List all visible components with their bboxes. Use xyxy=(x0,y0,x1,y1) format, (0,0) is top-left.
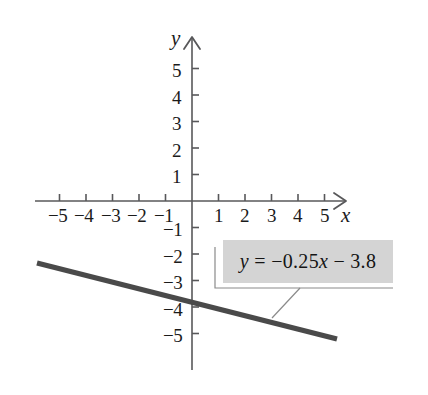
equation-equals: = xyxy=(249,250,271,272)
y-tick-label--1: −1 xyxy=(163,220,182,239)
x-tick-label--2: −2 xyxy=(127,206,146,225)
y-tick-label--4: −4 xyxy=(163,300,182,319)
equation-variable: x xyxy=(319,250,328,272)
annotation-leader-line xyxy=(272,288,300,318)
x-tick-label--5: −5 xyxy=(48,206,67,225)
x-tick-label-4: 4 xyxy=(293,206,302,225)
equation-lhs: y xyxy=(240,250,249,272)
y-tick-label-1: 1 xyxy=(172,167,181,186)
x-tick-label--3: −3 xyxy=(101,206,120,225)
x-tick-label-2: 2 xyxy=(240,206,249,225)
x-tick-label--4: −4 xyxy=(74,206,93,225)
x-axis-label: x xyxy=(341,205,350,226)
y-tick-label-2: 2 xyxy=(172,141,181,160)
x-tick-label-1: 1 xyxy=(214,206,223,225)
equation-annotation-box: y = −0.25x − 3.8 xyxy=(223,240,393,283)
graph-figure: −5 −4 −3 −2 −1 1 2 3 4 5 5 4 3 2 1 −1 −2… xyxy=(0,0,428,395)
equation-annotation-text: y = −0.25x − 3.8 xyxy=(240,250,376,273)
y-tick-label--2: −2 xyxy=(163,247,182,266)
y-tick-label-4: 4 xyxy=(172,88,181,107)
equation-coefficient: −0.25 xyxy=(271,250,319,272)
equation-constant: − 3.8 xyxy=(328,250,376,272)
y-tick-label--5: −5 xyxy=(163,326,182,345)
y-tick-label-5: 5 xyxy=(172,61,181,80)
y-tick-label--3: −3 xyxy=(163,273,182,292)
y-tick-label-3: 3 xyxy=(172,114,181,133)
x-tick-label-3: 3 xyxy=(267,206,276,225)
y-axis-label: y xyxy=(171,28,180,49)
x-tick-label-5: 5 xyxy=(320,206,329,225)
coordinate-plane xyxy=(0,0,428,395)
